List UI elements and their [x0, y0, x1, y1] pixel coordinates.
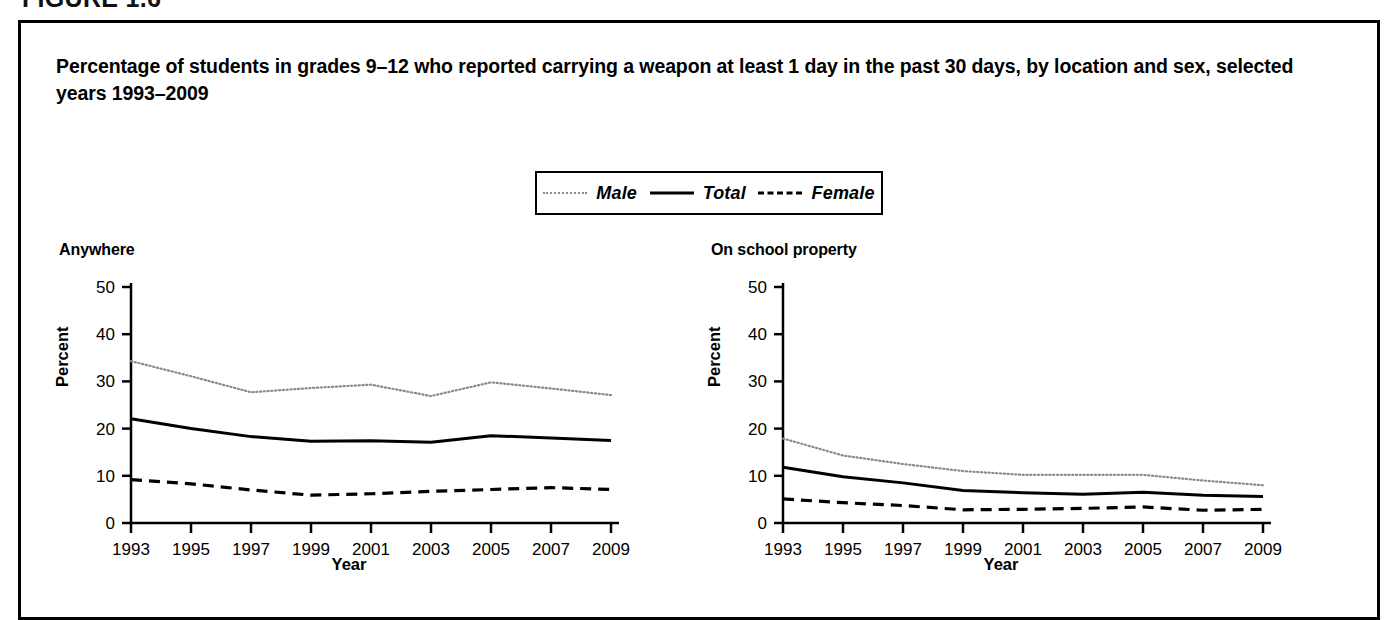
legend-entry-total: Total: [650, 183, 746, 204]
series-line-total: [131, 419, 611, 443]
legend-entry-male: Male: [543, 183, 637, 204]
x-axis-title-anywhere: Year: [59, 555, 639, 574]
x-axis-title-on-school-property: Year: [711, 555, 1291, 574]
figure-label: FIGURE 1.6: [22, 0, 161, 13]
legend-label-male: Male: [596, 183, 637, 204]
series-line-male: [131, 361, 611, 396]
series-line-female: [131, 480, 611, 496]
plot-area-anywhere: Percent 01020304050199319951997199920012…: [59, 269, 639, 589]
y-tick-label: 10: [748, 467, 767, 486]
panel-anywhere: Anywhere Percent 01020304050199319951997…: [59, 241, 639, 589]
panel-title-on-school-property: On school property: [711, 241, 1291, 259]
series-line-total: [783, 467, 1263, 496]
panel-on-school-property: On school property Percent 0102030405019…: [711, 241, 1291, 589]
series-line-female: [783, 499, 1263, 510]
chart-legend: Male Total Female: [535, 171, 883, 215]
figure-title: Percentage of students in grades 9–12 wh…: [56, 53, 1341, 106]
y-tick-label: 30: [748, 372, 767, 391]
y-tick-label: 0: [758, 514, 767, 533]
y-tick-label: 10: [96, 467, 115, 486]
y-tick-label: 50: [748, 278, 767, 297]
legend-label-female: Female: [811, 183, 874, 204]
legend-label-total: Total: [703, 183, 746, 204]
y-tick-label: 20: [96, 420, 115, 439]
panel-title-anywhere: Anywhere: [59, 241, 639, 259]
legend-line-solid-icon: [650, 188, 694, 198]
plot-area-on-school-property: Percent 01020304050199319951997199920012…: [711, 269, 1291, 589]
legend-entry-female: Female: [758, 183, 874, 204]
legend-line-dotted-icon: [543, 188, 587, 198]
y-tick-label: 40: [96, 325, 115, 344]
y-tick-label: 30: [96, 372, 115, 391]
y-tick-label: 40: [748, 325, 767, 344]
legend-line-dashed-icon: [758, 188, 802, 198]
line-chart-anywhere: 0102030405019931995199719992001200320052…: [59, 269, 639, 569]
y-tick-label: 50: [96, 278, 115, 297]
figure-frame: Percentage of students in grades 9–12 wh…: [18, 20, 1380, 620]
y-tick-label: 0: [106, 514, 115, 533]
y-tick-label: 20: [748, 420, 767, 439]
line-chart-on-school-property: 0102030405019931995199719992001200320052…: [711, 269, 1291, 569]
